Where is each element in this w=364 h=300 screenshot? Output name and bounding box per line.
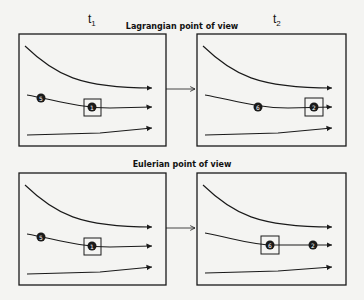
particle-2: 2 bbox=[310, 103, 319, 112]
particle-1: 1 bbox=[88, 103, 97, 112]
svg-text:1: 1 bbox=[90, 243, 94, 250]
panel-lagrangian-t1: 5 1 bbox=[19, 34, 166, 146]
svg-text:5: 5 bbox=[39, 95, 43, 102]
particle-5: 5 bbox=[37, 233, 46, 242]
panel-eulerian-t2: 6 2 bbox=[197, 173, 346, 285]
flow-diagram: 5 1 6 2 5 1 6 2 bbox=[0, 0, 364, 300]
panel-eulerian-t1: 5 1 bbox=[19, 173, 166, 285]
particle-2: 2 bbox=[309, 241, 318, 250]
svg-text:1: 1 bbox=[90, 104, 94, 111]
particle-6: 6 bbox=[266, 241, 275, 250]
svg-text:2: 2 bbox=[312, 104, 316, 111]
particle-1: 1 bbox=[88, 242, 97, 251]
svg-text:6: 6 bbox=[268, 242, 272, 249]
panel-lagrangian-t2: 6 2 bbox=[197, 34, 346, 146]
particle-6: 6 bbox=[254, 103, 263, 112]
svg-text:5: 5 bbox=[39, 234, 43, 241]
particle-5: 5 bbox=[37, 94, 46, 103]
svg-text:6: 6 bbox=[256, 104, 260, 111]
svg-text:2: 2 bbox=[311, 242, 315, 249]
